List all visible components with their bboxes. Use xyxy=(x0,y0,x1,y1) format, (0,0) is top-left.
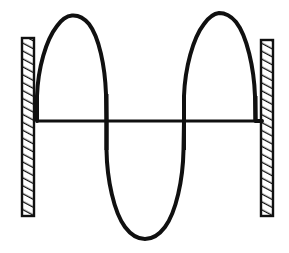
left-fixed-support xyxy=(22,38,34,216)
right-fixed-support xyxy=(261,40,273,216)
right-wall-hatch-fill xyxy=(261,40,273,216)
figure-canvas xyxy=(0,0,289,253)
standing-wave-figure xyxy=(0,0,289,253)
left-wall-hatch-fill xyxy=(22,38,34,216)
